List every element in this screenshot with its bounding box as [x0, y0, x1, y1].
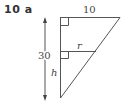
top-width-label: 10 — [83, 4, 96, 15]
hypotenuse — [61, 18, 121, 99]
mid-width-label: r — [77, 40, 83, 51]
right-angle-marker-middle — [61, 52, 69, 59]
right-angle-marker-top — [61, 18, 69, 26]
height-total-label: 30 — [38, 50, 51, 61]
triangle-diagram: 10 r 30 h — [0, 0, 128, 105]
lower-height-label: h — [51, 67, 57, 78]
